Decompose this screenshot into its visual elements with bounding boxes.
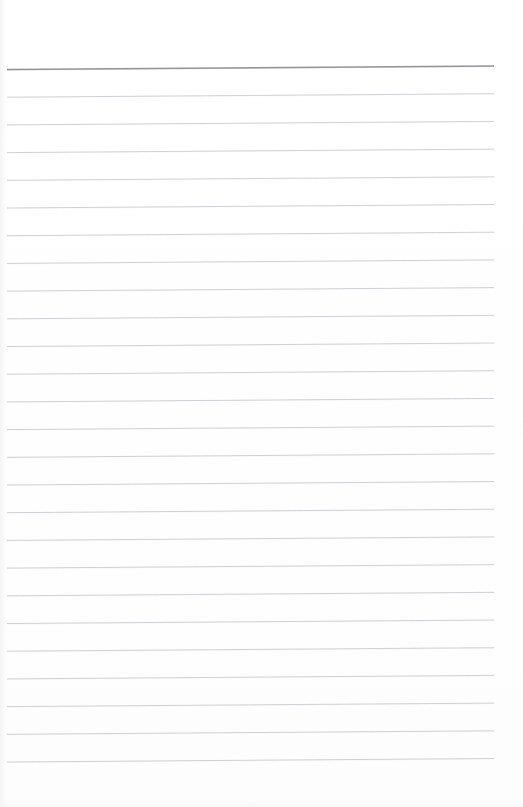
ruled-line-bleed: [7, 288, 494, 292]
ruled-line: [7, 565, 494, 569]
ruled-line: [7, 398, 494, 402]
ruled-line-bleed: [7, 261, 494, 265]
ruled-line-bleed: [7, 344, 494, 348]
ruled-line: [7, 482, 494, 486]
ruled-line-bleed: [7, 454, 494, 458]
ruled-line: [7, 343, 494, 347]
ruled-line: [7, 592, 494, 596]
ruled-line: [7, 232, 494, 236]
lined-paper-page: [0, 0, 523, 807]
ruled-lines-layer: [0, 0, 523, 807]
ruled-line-bleed: [7, 427, 494, 431]
ruled-line-bleed: [7, 510, 494, 514]
ruled-line: [7, 509, 494, 513]
ruled-line: [7, 177, 494, 181]
ruled-line-bleed: [7, 399, 494, 403]
ruled-line-bleed: [7, 371, 494, 375]
ruled-line: [7, 260, 494, 264]
ruled-line: [7, 620, 494, 624]
ruled-line-bleed: [7, 676, 494, 680]
ruled-line-bleed: [7, 704, 494, 708]
ruled-line: [7, 205, 494, 209]
ruled-line: [7, 537, 494, 541]
ruled-line: [7, 315, 494, 319]
ruled-line: [7, 759, 494, 763]
ruled-line-bleed: [7, 538, 494, 542]
ruled-line-bleed: [7, 94, 494, 98]
ruled-line-bleed: [7, 205, 494, 209]
ruled-line: [7, 371, 494, 375]
ruled-line-bleed: [7, 621, 494, 625]
ruled-lines-svg: [0, 0, 523, 807]
ruled-line-bleed: [7, 482, 494, 486]
ruled-line-bleed: [7, 759, 494, 763]
ruled-line-bleed: [7, 565, 494, 569]
ruled-line-bleed: [7, 177, 494, 181]
ruled-line: [7, 703, 494, 707]
ruled-line: [7, 648, 494, 652]
ruled-line: [7, 121, 494, 125]
ruled-line-bleed: [7, 122, 494, 126]
ruled-lines-group: [7, 66, 494, 763]
ruled-line: [7, 675, 494, 679]
header-rule-line: [7, 66, 494, 70]
ruled-line: [7, 149, 494, 153]
ruled-line-bleed: [7, 233, 494, 237]
ruled-line-bleed: [7, 316, 494, 320]
ruled-line: [7, 94, 494, 98]
ruled-line-bleed: [7, 150, 494, 154]
ruled-line-bleed: [7, 731, 494, 735]
ruled-line: [7, 288, 494, 292]
ruled-line-bleed: [7, 593, 494, 597]
ruled-line: [7, 426, 494, 430]
ruled-line: [7, 731, 494, 735]
ruled-line-bleed: [7, 648, 494, 652]
ruled-line: [7, 454, 494, 458]
